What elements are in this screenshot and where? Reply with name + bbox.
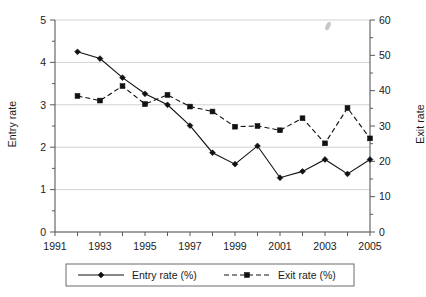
left-axis-tick-label: 4 [40, 56, 46, 68]
data-point-marker [345, 106, 350, 111]
x-axis-tick-label: 2003 [313, 240, 337, 252]
scan-artifact-smudge [324, 21, 332, 31]
x-axis-ticks: 19911993199519971999200120032005 [43, 232, 382, 252]
data-point-marker [210, 109, 215, 114]
x-axis-tick-label: 1993 [88, 240, 112, 252]
x-axis-tick-label: 1991 [43, 240, 67, 252]
left-axis-tick-label: 3 [40, 99, 46, 111]
right-axis-tick-label: 40 [379, 84, 391, 96]
chart-legend: Entry rate (%)Exit rate (%) [66, 264, 354, 286]
data-point-marker [345, 171, 351, 177]
legend-marker [245, 273, 250, 278]
x-axis-tick-label: 2001 [268, 240, 292, 252]
x-axis-tick-label: 2005 [358, 240, 382, 252]
data-series-group [75, 49, 373, 181]
left-axis-tick-label: 1 [40, 183, 46, 195]
data-point-marker [75, 49, 81, 55]
data-point-marker [98, 98, 103, 103]
right-axis-ticks: 0102030405060 [370, 14, 391, 238]
x-axis-tick-label: 1995 [133, 240, 157, 252]
right-axis-tick-label: 30 [379, 120, 391, 132]
data-point-marker [278, 128, 283, 133]
data-point-marker [165, 93, 170, 98]
legend-label: Entry rate (%) [132, 269, 197, 281]
right-axis-tick-label: 20 [379, 155, 391, 167]
x-axis-tick-label: 1997 [178, 240, 202, 252]
x-axis-tick-label: 1999 [223, 240, 247, 252]
data-point-marker [300, 168, 306, 174]
data-point-marker [188, 104, 193, 109]
right-axis-tick-label: 50 [379, 49, 391, 61]
data-point-marker [300, 116, 305, 121]
left-axis-ticks: 012345 [40, 14, 55, 238]
left-axis-tick-label: 5 [40, 14, 46, 26]
right-axis-tick-label: 10 [379, 190, 391, 202]
data-point-marker [322, 157, 328, 163]
right-axis-tick-label: 60 [379, 14, 391, 26]
data-point-marker [255, 124, 260, 129]
data-point-marker [143, 102, 148, 107]
right-axis-tick-label: 0 [379, 226, 385, 238]
series-line-exit [78, 86, 371, 143]
data-point-marker [75, 94, 80, 99]
data-point-marker [368, 136, 373, 141]
data-point-marker [120, 84, 125, 89]
data-point-marker [323, 141, 328, 146]
data-point-marker [233, 124, 238, 129]
left-axis-tick-label: 2 [40, 141, 46, 153]
left-axis-tick-label: 0 [40, 226, 46, 238]
gridlines [55, 20, 370, 232]
legend-label: Exit rate (%) [278, 269, 336, 281]
